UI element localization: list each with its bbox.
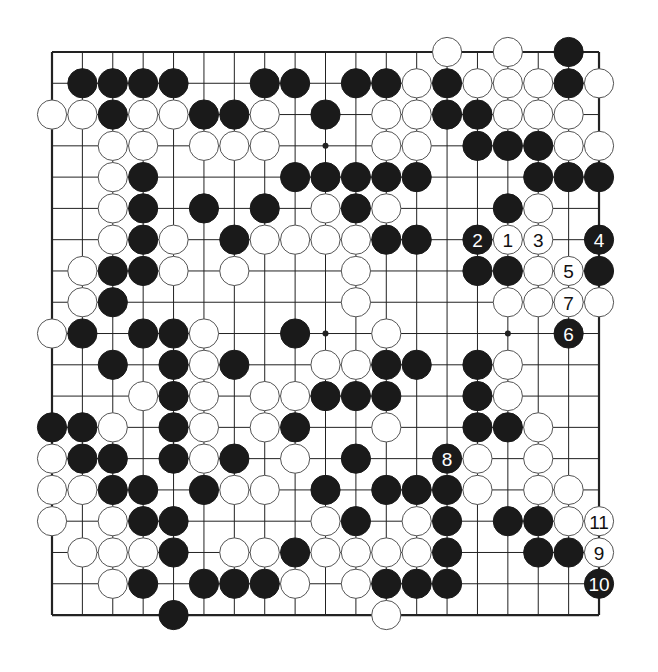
white-stone[interactable] — [493, 381, 522, 410]
black-stone[interactable] — [402, 225, 431, 254]
black-stone[interactable] — [584, 163, 613, 192]
white-stone[interactable] — [311, 350, 340, 379]
white-stone[interactable] — [129, 538, 158, 567]
white-stone[interactable] — [554, 131, 583, 160]
white-stone[interactable] — [584, 288, 613, 317]
white-stone[interactable] — [402, 538, 431, 567]
black-stone[interactable] — [493, 256, 522, 285]
white-stone[interactable] — [554, 100, 583, 129]
white-stone[interactable] — [372, 319, 401, 348]
white-stone[interactable] — [68, 288, 97, 317]
black-stone[interactable] — [189, 194, 218, 223]
black-stone[interactable] — [98, 350, 127, 379]
black-stone[interactable] — [189, 475, 218, 504]
black-stone[interactable] — [584, 256, 613, 285]
white-stone[interactable] — [189, 381, 218, 410]
white-stone[interactable] — [524, 444, 553, 473]
black-stone[interactable] — [493, 507, 522, 536]
black-stone[interactable] — [68, 413, 97, 442]
white-stone[interactable] — [372, 600, 401, 629]
black-stone[interactable] — [98, 288, 127, 317]
white-stone[interactable] — [98, 194, 127, 223]
white-stone[interactable] — [98, 569, 127, 598]
white-stone[interactable] — [311, 507, 340, 536]
white-stone[interactable] — [524, 288, 553, 317]
black-stone[interactable] — [402, 475, 431, 504]
white-stone[interactable] — [341, 569, 370, 598]
black-stone[interactable] — [159, 507, 188, 536]
white-stone[interactable] — [250, 413, 279, 442]
black-stone[interactable] — [341, 507, 370, 536]
white-stone[interactable] — [524, 100, 553, 129]
white-stone[interactable] — [159, 100, 188, 129]
black-stone[interactable] — [463, 413, 492, 442]
white-stone[interactable] — [493, 69, 522, 98]
white-stone[interactable] — [402, 131, 431, 160]
black-stone[interactable] — [220, 225, 249, 254]
black-stone[interactable] — [463, 350, 492, 379]
black-stone[interactable] — [129, 194, 158, 223]
black-stone[interactable] — [341, 163, 370, 192]
black-stone[interactable] — [129, 163, 158, 192]
white-stone[interactable] — [463, 475, 492, 504]
black-stone[interactable] — [372, 225, 401, 254]
white-stone[interactable] — [372, 131, 401, 160]
white-stone[interactable] — [311, 538, 340, 567]
black-stone[interactable] — [341, 444, 370, 473]
black-stone[interactable] — [98, 444, 127, 473]
black-stone[interactable] — [463, 100, 492, 129]
go-board[interactable]: 1234567891011 — [0, 0, 658, 672]
black-stone[interactable] — [311, 163, 340, 192]
black-stone[interactable] — [220, 569, 249, 598]
black-stone[interactable] — [493, 194, 522, 223]
black-stone[interactable] — [372, 569, 401, 598]
white-stone[interactable] — [37, 475, 66, 504]
white-stone[interactable] — [189, 131, 218, 160]
black-stone[interactable] — [220, 100, 249, 129]
black-stone[interactable] — [281, 538, 310, 567]
black-stone[interactable] — [311, 475, 340, 504]
black-stone[interactable] — [372, 163, 401, 192]
white-stone[interactable] — [493, 37, 522, 66]
black-stone[interactable] — [311, 381, 340, 410]
white-stone[interactable] — [524, 475, 553, 504]
white-stone[interactable] — [220, 131, 249, 160]
white-stone[interactable] — [189, 444, 218, 473]
black-stone[interactable] — [159, 413, 188, 442]
white-stone[interactable] — [432, 37, 461, 66]
black-stone[interactable] — [372, 475, 401, 504]
white-stone[interactable] — [98, 413, 127, 442]
black-stone[interactable] — [129, 225, 158, 254]
white-stone[interactable] — [220, 538, 249, 567]
white-stone[interactable] — [98, 163, 127, 192]
white-stone[interactable] — [250, 381, 279, 410]
black-stone[interactable] — [250, 569, 279, 598]
black-stone[interactable] — [554, 538, 583, 567]
black-stone[interactable] — [463, 256, 492, 285]
white-stone[interactable] — [402, 100, 431, 129]
white-stone[interactable] — [37, 319, 66, 348]
black-stone[interactable] — [250, 194, 279, 223]
white-stone[interactable] — [250, 131, 279, 160]
black-stone[interactable] — [129, 507, 158, 536]
black-stone[interactable] — [432, 538, 461, 567]
white-stone[interactable] — [493, 100, 522, 129]
white-stone[interactable] — [524, 194, 553, 223]
black-stone[interactable] — [524, 163, 553, 192]
white-stone[interactable] — [554, 507, 583, 536]
black-stone[interactable] — [432, 69, 461, 98]
black-stone[interactable] — [68, 319, 97, 348]
white-stone[interactable] — [250, 100, 279, 129]
black-stone[interactable] — [129, 69, 158, 98]
black-stone[interactable] — [98, 475, 127, 504]
white-stone[interactable] — [250, 475, 279, 504]
black-stone[interactable] — [432, 475, 461, 504]
black-stone[interactable] — [493, 131, 522, 160]
white-stone[interactable] — [311, 194, 340, 223]
white-stone[interactable] — [98, 225, 127, 254]
black-stone[interactable] — [372, 381, 401, 410]
black-stone[interactable] — [189, 100, 218, 129]
black-stone[interactable] — [159, 600, 188, 629]
white-stone[interactable] — [68, 538, 97, 567]
white-stone[interactable] — [68, 100, 97, 129]
